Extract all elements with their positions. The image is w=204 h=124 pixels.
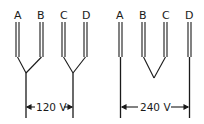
left-label-d: D <box>82 9 90 22</box>
right-label-b: B <box>139 9 147 22</box>
wiring-diagram: A B C D 120 V A B C D 240 V <box>0 0 204 124</box>
right-label-c: C <box>162 9 170 22</box>
right-label-d: D <box>185 9 193 22</box>
left-voltage-label: 120 V <box>36 101 67 113</box>
left-label-c: C <box>60 9 68 22</box>
left-label-b: B <box>37 9 45 22</box>
right-label-a: A <box>116 9 124 22</box>
right-voltage-label: 240 V <box>140 101 171 113</box>
left-label-a: A <box>14 9 22 22</box>
